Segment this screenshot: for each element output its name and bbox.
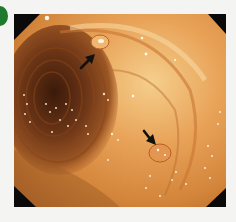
panel-label-badge (0, 6, 8, 26)
endoscopy-image (14, 14, 226, 207)
